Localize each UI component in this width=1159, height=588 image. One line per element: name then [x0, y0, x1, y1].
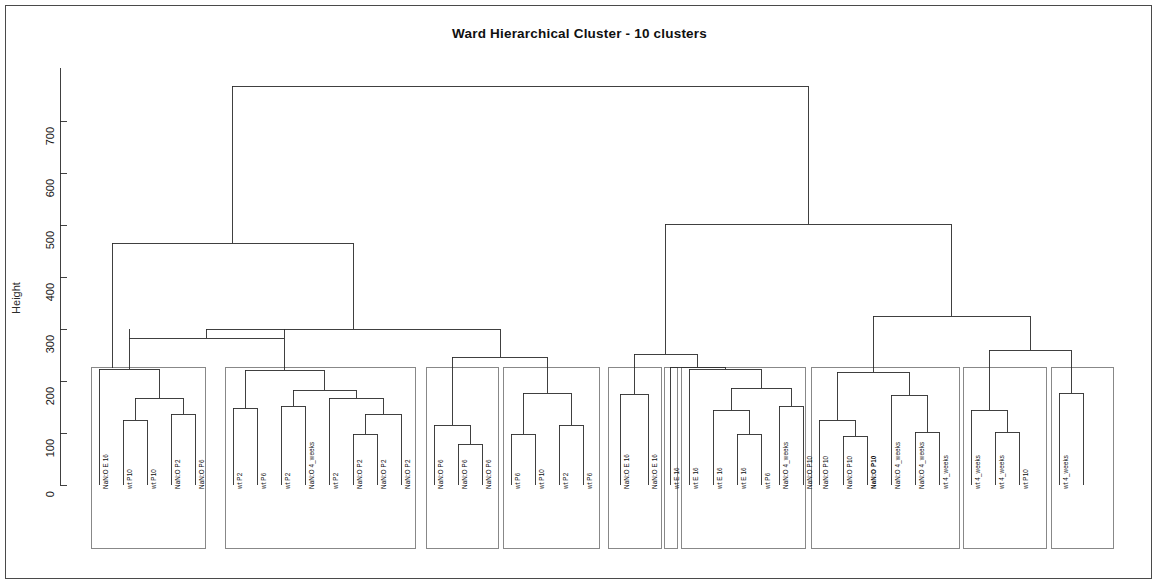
leaf-label: NaN:O P10: [846, 456, 853, 489]
leaf-label: wt E 16: [740, 467, 747, 489]
leaf-label: wt P6: [586, 473, 593, 489]
leaf-label: NaN:O E 16: [102, 454, 109, 489]
leaf-label: NaN:O 4_weeks: [894, 442, 901, 489]
leaf-label: NaN:O E 16: [623, 454, 630, 489]
leaf-label: wt P10: [150, 469, 157, 489]
leaf-label: wt P2: [562, 473, 569, 489]
cluster-boxes: [91, 367, 1113, 548]
leaf-label: wt E 16: [716, 467, 723, 489]
cluster-box-2: [225, 367, 415, 548]
leaf-label: wt 4_weeks: [1062, 455, 1069, 489]
leaf-label: wt P6: [764, 473, 771, 489]
leaf-label: wt P10: [126, 469, 133, 489]
leaf-label: wt P2: [236, 473, 243, 489]
leaf-label: NaN:O P6: [437, 460, 444, 490]
leaf-label: NaN:O 4_weeks: [308, 442, 315, 489]
leaf-label: NaN:O 4_weeks: [782, 442, 789, 489]
leaf-label: NaN:O P6: [461, 460, 468, 490]
leaf-label: NaN:O P6: [485, 460, 492, 490]
leaf-label: NaN:O P10: [870, 456, 877, 489]
leaf-label: NaN:O P10: [822, 456, 829, 489]
leaf-label: wt P2: [284, 473, 291, 489]
cluster-box-6: [664, 367, 677, 548]
leaf-label: NaN:O P2: [174, 460, 181, 490]
cluster-box-3: [426, 367, 498, 548]
leaf-label: wt P10: [1022, 469, 1029, 489]
leaf-label: wt 4_weeks: [974, 455, 981, 489]
leaf-label: NaN:O P6: [198, 460, 205, 490]
leaf-label: wt E 16: [673, 467, 680, 489]
dendrogram-page: Ward Hierarchical Cluster - 10 clusters …: [0, 0, 1159, 588]
leaf-label: wt 4_weeks: [998, 455, 1005, 489]
leaf-label: NaN:O P2: [356, 460, 363, 490]
leaf-label: NaN:O E 16: [651, 454, 658, 489]
cluster-box-4: [503, 367, 599, 548]
leaf-label: wt P10: [538, 469, 545, 489]
leaf-label: NaN:O 4_weeks: [918, 442, 925, 489]
cluster-box-8: [811, 367, 959, 548]
leaf-label: wt P6: [514, 473, 521, 489]
leaf-label: wt P6: [260, 473, 267, 489]
cluster-box-10: [1051, 367, 1113, 548]
leaf-label: wt 4_weeks: [942, 455, 949, 489]
leaf-label: NaN:O P2: [380, 460, 387, 490]
dendrogram-links: [99, 86, 1083, 485]
leaf-label: NaN:O P10: [806, 456, 813, 489]
leaf-label: wt P2: [332, 473, 339, 489]
leaf-label: NaN:O P2: [404, 460, 411, 490]
dendrogram-canvas: [0, 0, 1159, 588]
leaf-label: wt E 16: [692, 467, 699, 489]
